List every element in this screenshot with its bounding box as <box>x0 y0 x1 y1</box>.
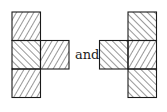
diagram-canvas: and <box>0 0 167 112</box>
left-figure-cell-middle <box>12 41 41 70</box>
left-figure-cell-bottom <box>12 69 41 98</box>
right-figure-cell-bottom <box>128 69 157 98</box>
right-figure <box>100 12 157 98</box>
left-figure-cell-top <box>12 12 41 41</box>
left-figure-cell-right-arm <box>41 41 70 70</box>
and-connector-text: and <box>75 47 99 62</box>
right-figure-cell-top <box>128 12 157 41</box>
left-figure <box>12 12 69 98</box>
right-figure-cell-left-arm <box>100 41 129 70</box>
right-figure-cell-middle <box>128 41 157 70</box>
